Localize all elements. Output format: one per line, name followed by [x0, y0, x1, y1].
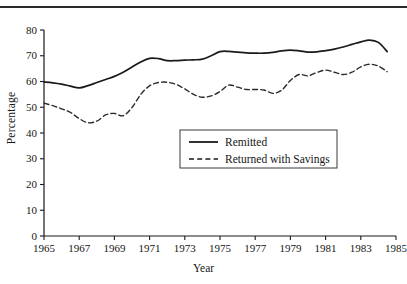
line-chart: 0102030405060708019651967196919711973197…: [0, 0, 407, 284]
x-tick-label: 1983: [350, 242, 373, 254]
y-tick-label: 40: [26, 127, 38, 139]
series-line: [44, 64, 387, 123]
x-tick-label: 1969: [103, 242, 126, 254]
figure-container: · · · · · 010203040506070801965196719691…: [0, 0, 407, 284]
y-tick-label: 10: [26, 204, 38, 216]
y-tick-label: 30: [26, 152, 38, 164]
y-tick-label: 80: [26, 24, 38, 36]
x-tick-label: 1985: [385, 242, 407, 254]
x-tick-label: 1975: [209, 242, 232, 254]
legend-label: Remitted: [225, 136, 267, 148]
x-axis-label: Year: [0, 262, 407, 274]
x-tick-label: 1981: [315, 242, 337, 254]
y-tick-label: 50: [26, 101, 38, 113]
y-axis-label: Percentage: [5, 73, 17, 163]
x-tick-label: 1971: [139, 242, 161, 254]
legend-label: Returned with Savings: [225, 153, 330, 166]
y-tick-label: 0: [32, 230, 38, 242]
x-tick-label: 1965: [33, 242, 56, 254]
x-tick-label: 1967: [68, 242, 91, 254]
x-tick-label: 1977: [244, 242, 267, 254]
y-tick-label: 70: [26, 49, 38, 61]
x-tick-label: 1979: [279, 242, 302, 254]
x-tick-label: 1973: [174, 242, 197, 254]
series-line: [44, 40, 387, 88]
y-tick-label: 60: [26, 75, 38, 87]
y-tick-label: 20: [26, 178, 38, 190]
